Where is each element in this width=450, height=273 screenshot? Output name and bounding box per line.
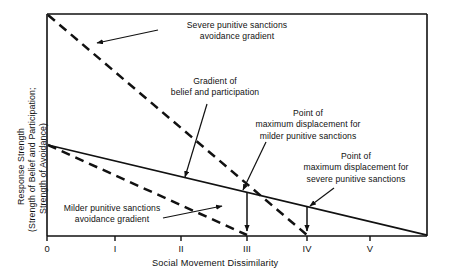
severe-gradient-annotation: Severe punitive sanctions avoidance grad… — [163, 20, 311, 43]
belief-gradient-annotation: Gradient of belief and participation — [150, 76, 280, 99]
milder-max-displacement-line3: milder punitive sanctions — [232, 131, 384, 142]
leader-belief-gradient — [185, 104, 207, 177]
leader-milder-max-displacement — [243, 142, 266, 190]
x-tick-label-V: V — [359, 243, 381, 254]
milder-max-displacement-annotation: Point of maximum displacement for milder… — [232, 108, 384, 142]
x-tick-label-IV: IV — [296, 243, 318, 254]
y-axis-title-line1: Response Strength — [16, 128, 26, 205]
severe-max-displacement-line1: Point of — [280, 151, 432, 162]
milder-gradient-annotation: Milder punitive sanctions avoidance grad… — [52, 203, 172, 226]
severe-max-displacement-annotation: Point of maximum displacement for severe… — [280, 151, 432, 185]
x-tick-label-I: I — [104, 243, 126, 254]
belief-gradient-annotation-line2: belief and participation — [150, 87, 280, 98]
milder-gradient-annotation-line1: Milder punitive sanctions — [52, 203, 172, 214]
severe-max-displacement-line2: maximum displacement for — [280, 162, 432, 173]
severe-gradient-annotation-line1: Severe punitive sanctions — [163, 20, 311, 31]
x-tick-label-II: II — [170, 243, 192, 254]
y-axis-title-line3: Strength of Avoidance) — [38, 123, 48, 214]
belief-gradient-annotation-line1: Gradient of — [150, 76, 280, 87]
leader-severe-gradient — [97, 30, 158, 43]
severe-gradient-annotation-line2: avoidance gradient — [163, 31, 311, 42]
milder-gradient-annotation-line2: avoidance gradient — [52, 214, 172, 225]
x-tick-label-III: III — [236, 243, 258, 254]
leader-severe-max-displacement — [310, 188, 334, 206]
x-tick-label-0: 0 — [36, 243, 58, 254]
x-axis-title: Social Movement Dissimilarity — [152, 258, 278, 268]
milder-max-displacement-line2: maximum displacement for — [232, 119, 384, 130]
severe-max-displacement-line3: severe punitive sanctions — [280, 174, 432, 185]
y-axis-title-line2: (Strength of Belief and Participation; — [27, 87, 37, 232]
milder-max-displacement-line1: Point of — [232, 108, 384, 119]
